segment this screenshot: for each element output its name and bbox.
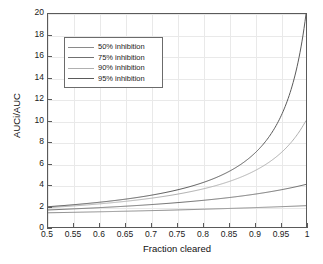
y-tick: [47, 207, 52, 208]
x-tick: [47, 223, 48, 228]
x-tick: [177, 223, 178, 228]
legend-entry-label: 95% inhibition: [98, 74, 145, 83]
y-tick: [47, 185, 52, 186]
legend-entry: 75% inhibition: [68, 52, 158, 62]
legend-entry-label: 50% inhibition: [98, 42, 145, 51]
y-tick-label: 2: [39, 202, 44, 211]
legend: 50% inhibition 75% inhibition 90% inhibi…: [64, 37, 163, 88]
y-tick: [47, 164, 52, 165]
legend-entry-label: 90% inhibition: [98, 63, 145, 72]
x-tick: [281, 223, 282, 228]
y-tick: [47, 121, 52, 122]
x-tick: [125, 223, 126, 228]
series-line: [48, 121, 306, 208]
legend-line-swatch: [68, 74, 94, 82]
x-tick: [203, 223, 204, 228]
series-line: [48, 206, 306, 213]
y-tick-label: 18: [35, 30, 44, 39]
x-tick: [229, 223, 230, 228]
legend-entry: 95% inhibition: [68, 73, 158, 83]
y-tick-label: 8: [39, 137, 44, 146]
x-tick: [73, 223, 74, 228]
legend-entry: 90% inhibition: [68, 63, 158, 73]
x-tick: [151, 223, 152, 228]
x-tick: [307, 223, 308, 228]
x-axis-title: Fraction cleared: [47, 243, 307, 254]
legend-entry-label: 75% inhibition: [98, 53, 145, 62]
x-tick-label: 1: [290, 230, 323, 239]
legend-line-swatch: [68, 53, 94, 61]
y-tick: [47, 13, 52, 14]
y-tick-label: 6: [39, 159, 44, 168]
x-tick: [255, 223, 256, 228]
y-tick-label: 4: [39, 180, 44, 189]
y-tick: [47, 56, 52, 57]
chart-figure: 024681012141618200.50.550.60.650.70.750.…: [0, 0, 323, 264]
y-tick: [47, 35, 52, 36]
y-tick: [47, 142, 52, 143]
legend-line-swatch: [68, 64, 94, 72]
y-tick-label: 12: [35, 94, 44, 103]
legend-line-swatch: [68, 43, 94, 51]
y-tick-label: 16: [35, 51, 44, 60]
y-tick-label: 10: [35, 116, 44, 125]
y-axis-title: AUCi/AUC: [11, 56, 22, 176]
series-line: [48, 184, 306, 210]
y-tick: [47, 78, 52, 79]
y-tick-label: 20: [35, 8, 44, 17]
x-tick: [99, 223, 100, 228]
y-tick: [47, 99, 52, 100]
legend-entry: 50% inhibition: [68, 42, 158, 52]
y-tick-label: 14: [35, 73, 44, 82]
